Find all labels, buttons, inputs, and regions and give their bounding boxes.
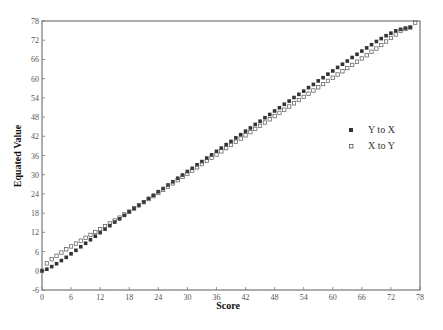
x-tick-label: 18 [125, 293, 133, 302]
y-tick-label: 72 [31, 36, 39, 45]
y-axis: -606121824303642485460667278 [31, 17, 45, 295]
y-tick-label: 0 [35, 267, 39, 276]
y-tick-label: 48 [31, 113, 39, 122]
y-tick-label: 60 [31, 75, 39, 84]
x-tick-label: 6 [69, 293, 73, 302]
legend-label-y-to-x: Y to X [368, 124, 396, 135]
x-tick-label: 72 [387, 293, 395, 302]
x-axis-title: Score [216, 300, 240, 311]
x-tick-label: 24 [154, 293, 162, 302]
x-tick-label: 48 [271, 293, 279, 302]
y-tick-label: 30 [31, 171, 39, 180]
series-y-to-x [40, 26, 412, 273]
x-tick-label: 66 [358, 293, 366, 302]
x-tick-label: 78 [416, 293, 424, 302]
legend: Y to X X to Y [349, 124, 396, 151]
y-tick-label: 54 [31, 94, 39, 103]
y-tick-label: 66 [31, 55, 39, 64]
y-tick-label: 36 [31, 152, 39, 161]
y-tick-label: 78 [31, 17, 39, 26]
x-tick-label: 54 [300, 293, 308, 302]
plot-frame [42, 21, 420, 290]
x-tick-label: 0 [40, 293, 44, 302]
x-tick-label: 12 [96, 293, 104, 302]
x-tick-label: 60 [329, 293, 337, 302]
legend-marker-filled-icon [349, 128, 353, 132]
y-tick-label: -6 [32, 286, 39, 295]
y-tick-label: 42 [31, 132, 39, 141]
y-tick-label: 18 [31, 209, 39, 218]
x-tick-label: 30 [183, 293, 191, 302]
legend-marker-open-icon [350, 145, 354, 149]
y-tick-label: 12 [31, 228, 39, 237]
x-tick-label: 42 [242, 293, 250, 302]
data-points [40, 21, 417, 273]
y-axis-title: Equated Value [12, 124, 23, 187]
legend-label-x-to-y: X to Y [368, 140, 395, 151]
y-tick-label: 6 [35, 248, 39, 257]
scatter-chart: 06121824303642485460667278 -606121824303… [0, 0, 443, 330]
y-tick-label: 24 [31, 190, 39, 199]
